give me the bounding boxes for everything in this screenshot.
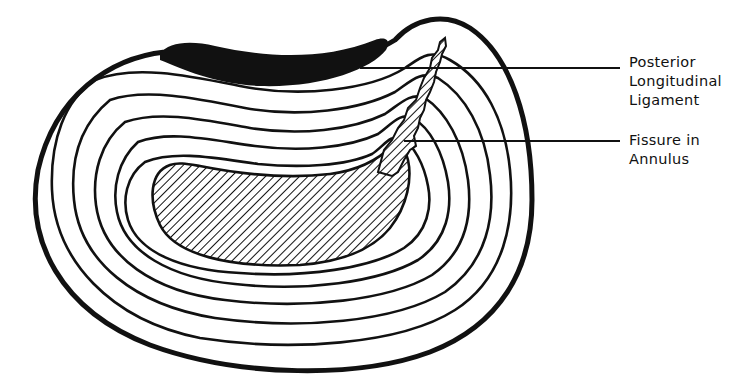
disc-diagram: Posterior Longitudinal Ligament Fissure … bbox=[0, 0, 744, 384]
posterior-longitudinal-ligament-band bbox=[160, 38, 388, 86]
label-fissure-in-annulus: Fissure in Annulus bbox=[629, 131, 700, 169]
label-line: Ligament bbox=[629, 91, 722, 110]
label-line: Fissure in bbox=[629, 131, 700, 150]
label-line: Annulus bbox=[629, 150, 700, 169]
label-posterior-longitudinal-ligament: Posterior Longitudinal Ligament bbox=[629, 53, 722, 110]
label-line: Posterior bbox=[629, 53, 722, 72]
nucleus-pulposus bbox=[153, 144, 410, 266]
label-line: Longitudinal bbox=[629, 72, 722, 91]
